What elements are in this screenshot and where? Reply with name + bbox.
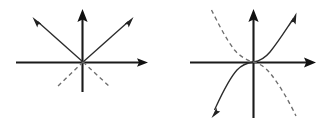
left-dashed-extension-down-right [83, 62, 110, 87]
right-diagram-svg [166, 0, 331, 127]
right-diagram-panel [166, 0, 331, 127]
left-ray-up-right [83, 22, 129, 63]
left-ray-up-left-arrow-icon [33, 17, 42, 27]
right-curve-lower-arrow-icon [212, 108, 221, 118]
left-dashed-extension-down-left [57, 62, 83, 87]
left-ray-up-left [38, 22, 84, 63]
left-ray-up-right-arrow-icon [125, 17, 134, 27]
figure-root [0, 0, 331, 127]
left-diagram-svg [0, 0, 166, 127]
left-diagram-panel [0, 0, 166, 127]
